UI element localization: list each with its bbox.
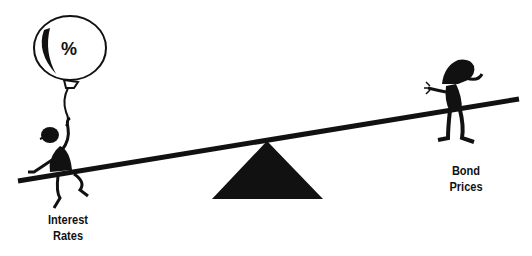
- percent-symbol: %: [61, 39, 77, 59]
- interest-rates-label-line1: Interest: [34, 212, 102, 228]
- left-figure-icon: [28, 118, 88, 208]
- interest-rates-label: Interest Rates: [34, 212, 102, 244]
- interest-rates-label-line2: Rates: [34, 228, 102, 244]
- bond-prices-label-line2: Prices: [441, 179, 492, 195]
- balloon-icon: %: [34, 16, 106, 126]
- fulcrum-triangle: [212, 141, 323, 199]
- right-figure-icon: [424, 60, 482, 142]
- bond-prices-label-line1: Bond: [441, 163, 492, 179]
- bond-prices-label: Bond Prices: [441, 163, 492, 195]
